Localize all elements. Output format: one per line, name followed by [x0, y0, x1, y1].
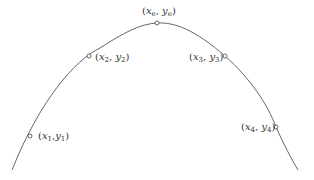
point-label-4: (x4, y4) — [241, 122, 275, 132]
point-marker-1 — [28, 134, 32, 138]
paren-close: ) — [126, 51, 130, 62]
point-marker-3 — [223, 54, 227, 58]
point-label-3: (x3, y3) — [189, 52, 223, 62]
paren-close: ) — [220, 51, 224, 62]
paren-close: ) — [272, 121, 276, 132]
paren-close: ) — [65, 130, 69, 141]
point-label-e: (xe, ye) — [142, 6, 176, 16]
paren-close: ) — [172, 5, 176, 16]
point-label-1: (x1,y1) — [38, 131, 69, 141]
curve-svg — [0, 0, 314, 180]
diagram-canvas: (x1,y1) (x2, y2) (xe, ye) (x3, y3) (x4, … — [0, 0, 314, 180]
point-label-2: (x2, y2) — [95, 52, 129, 62]
point-marker-2 — [87, 54, 91, 58]
parabola-curve — [12, 23, 298, 170]
point-marker-e — [155, 21, 159, 25]
